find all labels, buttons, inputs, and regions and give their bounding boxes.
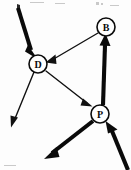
node-b-label: B: [103, 22, 110, 33]
node-b[interactable]: B: [97, 18, 115, 36]
diagram-canvas: B D P: [0, 0, 131, 170]
edge-b-to-d: [46, 33, 99, 64]
graph-drawing: B D P: [0, 0, 131, 170]
node-d[interactable]: D: [29, 55, 47, 73]
node-p[interactable]: P: [91, 105, 109, 123]
edge-outbound-p-to-bottom-left: [44, 121, 93, 159]
edge-outbound-d-to-bottom-left: [11, 72, 35, 128]
edge-inbound-bottom-right-to-p: [106, 121, 129, 170]
node-d-label: D: [34, 59, 41, 70]
node-p-label: P: [97, 109, 103, 120]
edge-p-to-b: [100, 34, 111, 106]
edge-d-to-p: [46, 71, 93, 107]
edge-inbound-top-left-to-d: [18, 8, 38, 59]
